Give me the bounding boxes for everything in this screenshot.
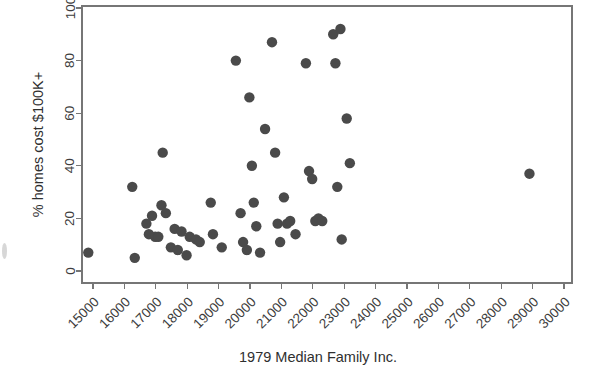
data-point [247, 161, 257, 171]
data-point [342, 113, 352, 123]
y-tick-label: 0 [63, 267, 78, 275]
x-tick-label: 21000 [253, 294, 290, 331]
data-point [335, 24, 345, 34]
x-axis-title: 1979 Median Family Inc. [239, 349, 397, 365]
data-point [290, 229, 300, 239]
data-point [307, 174, 317, 184]
x-tick-label: 18000 [159, 294, 196, 331]
x-tick-label: 29000 [504, 294, 541, 331]
y-tick-label: 60 [63, 106, 78, 121]
data-point [242, 245, 252, 255]
data-point [267, 37, 277, 47]
x-tick-label: 15000 [65, 294, 102, 331]
x-tick-label: 19000 [190, 294, 227, 331]
x-tick-label: 26000 [410, 294, 447, 331]
data-point [275, 237, 285, 247]
y-tick-label: 80 [63, 53, 78, 68]
x-tick-label: 27000 [442, 294, 479, 331]
data-point [231, 55, 241, 65]
data-point [317, 216, 327, 226]
data-point [127, 182, 137, 192]
x-tick-label: 16000 [96, 294, 133, 331]
x-tick-label: 20000 [222, 294, 259, 331]
x-tick-label: 17000 [128, 294, 165, 331]
x-tick-label: 24000 [347, 294, 384, 331]
data-point [158, 147, 168, 157]
data-point [260, 124, 270, 134]
data-point [336, 234, 346, 244]
data-point [244, 92, 254, 102]
data-point [147, 211, 157, 221]
data-point [279, 192, 289, 202]
data-point [249, 197, 259, 207]
data-point [270, 147, 280, 157]
data-point [161, 208, 171, 218]
data-point [195, 237, 205, 247]
x-tick-label: 25000 [379, 294, 416, 331]
data-point [301, 58, 311, 68]
y-tick-label: 20 [63, 211, 78, 226]
scatter-chart-figure: 0204060801001500016000170001800019000200… [0, 0, 600, 386]
x-tick-label: 30000 [536, 294, 573, 331]
data-point [130, 253, 140, 263]
plot-canvas: 0204060801001500016000170001800019000200… [0, 0, 600, 386]
data-point [173, 245, 183, 255]
data-point [272, 218, 282, 228]
data-point [255, 247, 265, 257]
data-point [235, 208, 245, 218]
x-tick-label: 22000 [285, 294, 322, 331]
x-axis: 1500016000170001800019000200002100022000… [65, 283, 573, 331]
x-tick-label: 28000 [473, 294, 510, 331]
y-axis-title: % homes cost $100K+ [30, 72, 46, 218]
y-tick-label: 100 [63, 0, 78, 19]
y-tick-label: 40 [63, 158, 78, 173]
data-point [206, 197, 216, 207]
data-point [217, 242, 227, 252]
data-point [332, 182, 342, 192]
data-point [251, 221, 261, 231]
data-point [153, 232, 163, 242]
data-point [208, 229, 218, 239]
data-point [524, 168, 534, 178]
data-point [83, 247, 93, 257]
data-point [181, 250, 191, 260]
data-point [345, 158, 355, 168]
x-tick-label: 23000 [316, 294, 353, 331]
data-point [285, 216, 295, 226]
data-point-series [83, 24, 535, 263]
y-axis: 020406080100 [63, 0, 83, 275]
data-point [330, 58, 340, 68]
